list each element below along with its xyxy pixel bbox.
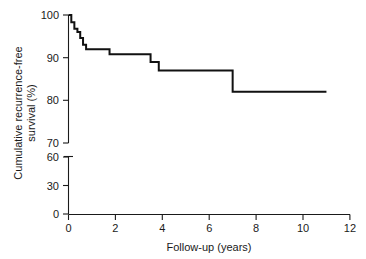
y-axis-title-line2: survival (%) bbox=[25, 84, 37, 141]
y-ticklabel-90: 90 bbox=[47, 52, 59, 64]
x-ticklabel-0: 0 bbox=[65, 222, 71, 234]
chart-background bbox=[0, 0, 366, 259]
y-ticklabel-60: 60 bbox=[47, 151, 59, 163]
x-ticklabel-12: 12 bbox=[344, 222, 356, 234]
x-axis-title: Follow-up (years) bbox=[167, 241, 252, 253]
y-ticklabel-0: 0 bbox=[53, 208, 59, 220]
x-ticklabel-2: 2 bbox=[112, 222, 118, 234]
x-ticklabel-8: 8 bbox=[253, 222, 259, 234]
km-survival-chart: 100 90 80 70 60 30 0 0 2 4 6 8 10 12 Fol… bbox=[0, 0, 366, 259]
y-ticklabel-100: 100 bbox=[41, 9, 59, 21]
y-ticklabel-30: 30 bbox=[47, 180, 59, 192]
y-axis-title-line1: Cumulative recurrence-free bbox=[12, 46, 24, 179]
x-ticklabel-10: 10 bbox=[297, 222, 309, 234]
y-ticklabel-70: 70 bbox=[47, 137, 59, 149]
x-ticklabel-6: 6 bbox=[206, 222, 212, 234]
y-ticklabel-80: 80 bbox=[47, 94, 59, 106]
x-ticklabel-4: 4 bbox=[159, 222, 165, 234]
